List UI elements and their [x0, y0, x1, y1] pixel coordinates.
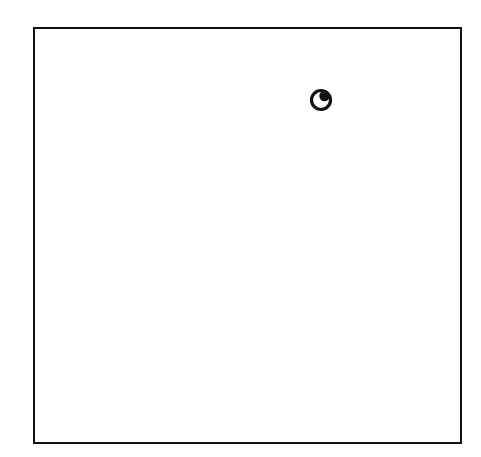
square-frame	[33, 27, 462, 444]
eye-icon	[308, 86, 334, 112]
